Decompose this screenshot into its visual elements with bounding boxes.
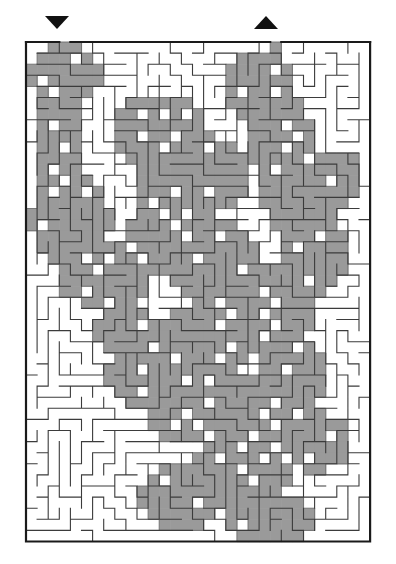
exit-marker bbox=[254, 16, 278, 29]
maze-canvas bbox=[0, 0, 396, 564]
entrance-marker bbox=[45, 16, 69, 29]
maze-figure bbox=[0, 0, 396, 564]
